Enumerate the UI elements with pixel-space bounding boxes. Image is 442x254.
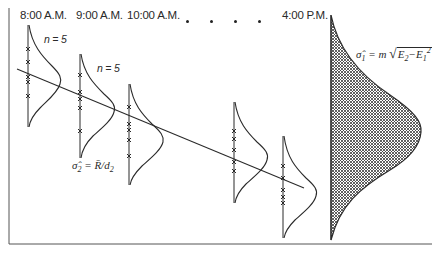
sample-size-label-1: n = 5 (44, 33, 67, 45)
ellipsis-dot (258, 20, 261, 23)
time-label-4pm: 4:00 P.M. (282, 9, 328, 21)
subgroup-normal-curve (235, 102, 268, 203)
ellipsis-dot (210, 20, 213, 23)
time-label-9am: 9:00 A.M. (76, 9, 123, 21)
time-label-8am: 8:00 A.M. (20, 9, 67, 21)
sample-size-label-2: n = 5 (97, 62, 120, 74)
time-label-10am: 10:00 A.M. (127, 9, 180, 21)
trend-line (17, 69, 304, 188)
subgroup-later (232, 102, 268, 203)
sqrt-radicand: E2−E12 (397, 47, 432, 60)
total-sigma-formula: σ̂1 = m √E2−E12 (356, 46, 432, 63)
subgroup-10am (127, 84, 163, 185)
ellipsis-dot (234, 20, 237, 23)
subgroup-normal-curve (130, 84, 163, 185)
sqrt-sign: √ (389, 46, 397, 61)
subgroup-4pm (281, 136, 317, 238)
within-sigma-formula: σ̂2 = R̄/d2 (72, 159, 114, 174)
ellipsis-dot (186, 20, 189, 23)
